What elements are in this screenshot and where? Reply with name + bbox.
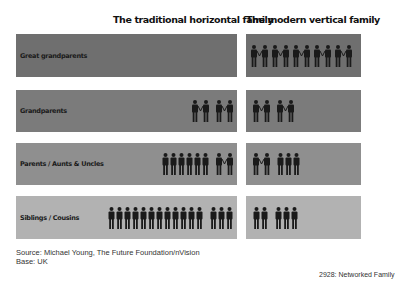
couple-group bbox=[192, 100, 209, 122]
row-label: Grandparents bbox=[20, 107, 67, 115]
traditional-panel: Parents / Aunts & Uncles bbox=[16, 143, 237, 185]
person-icon bbox=[132, 207, 139, 229]
couple-icon bbox=[335, 45, 352, 67]
couple-group bbox=[253, 153, 270, 175]
couple-icon bbox=[253, 153, 270, 175]
couple-icon bbox=[293, 45, 310, 67]
person-icon bbox=[202, 153, 209, 175]
couple-icon bbox=[192, 100, 209, 122]
person-group bbox=[275, 207, 298, 229]
person-icon bbox=[277, 153, 284, 175]
modern-panel bbox=[246, 143, 361, 185]
modern-figures bbox=[251, 34, 356, 77]
person-group bbox=[108, 207, 203, 229]
person-icon bbox=[140, 207, 147, 229]
couple-icon bbox=[314, 45, 331, 67]
person-group bbox=[253, 207, 268, 229]
traditional-figures bbox=[108, 196, 233, 239]
modern-figures bbox=[253, 90, 294, 132]
person-icon bbox=[170, 153, 177, 175]
person-icon bbox=[178, 153, 185, 175]
couple-icon bbox=[277, 100, 294, 122]
person-icon bbox=[226, 207, 233, 229]
couple-group bbox=[277, 100, 294, 122]
modern-panel bbox=[246, 196, 361, 239]
traditional-panel: Grandparents bbox=[16, 90, 237, 132]
person-icon bbox=[291, 207, 298, 229]
person-icon bbox=[261, 207, 268, 229]
person-group bbox=[277, 153, 300, 175]
modern-panel bbox=[246, 90, 361, 132]
person-icon bbox=[196, 207, 203, 229]
modern-figures bbox=[253, 143, 300, 185]
header-modern: The modern vertical family bbox=[246, 14, 380, 25]
traditional-figures bbox=[192, 90, 233, 132]
person-icon bbox=[253, 207, 260, 229]
person-icon bbox=[218, 207, 225, 229]
person-icon bbox=[162, 153, 169, 175]
base-note: Base: UK bbox=[16, 258, 48, 266]
person-icon bbox=[188, 207, 195, 229]
traditional-figures bbox=[162, 143, 233, 185]
row-label: Great grandparents bbox=[20, 52, 87, 60]
couple-icon bbox=[253, 100, 270, 122]
person-icon bbox=[124, 207, 131, 229]
person-icon bbox=[108, 207, 115, 229]
person-icon bbox=[156, 207, 163, 229]
person-group bbox=[210, 207, 233, 229]
person-icon bbox=[293, 153, 300, 175]
person-icon bbox=[210, 207, 217, 229]
row-label: Siblings / Cousins bbox=[20, 214, 79, 222]
person-group bbox=[162, 153, 209, 175]
person-icon bbox=[116, 207, 123, 229]
person-icon bbox=[148, 207, 155, 229]
couple-icon bbox=[272, 45, 289, 67]
couple-icon bbox=[216, 100, 233, 122]
row-label: Parents / Aunts & Uncles bbox=[20, 160, 104, 168]
modern-figures bbox=[253, 196, 298, 239]
modern-panel bbox=[246, 34, 361, 77]
person-icon bbox=[164, 207, 171, 229]
couple-icon bbox=[251, 45, 268, 67]
person-icon bbox=[172, 207, 179, 229]
chart-reference: 2928: Networked Family bbox=[319, 271, 394, 279]
traditional-panel: Great grandparents bbox=[16, 34, 237, 77]
person-icon bbox=[180, 207, 187, 229]
person-icon bbox=[283, 207, 290, 229]
person-icon bbox=[194, 153, 201, 175]
couple-group bbox=[251, 45, 356, 67]
couple-group bbox=[216, 100, 233, 122]
couple-group bbox=[253, 100, 270, 122]
person-icon bbox=[275, 207, 282, 229]
person-icon bbox=[186, 153, 193, 175]
traditional-panel: Siblings / Cousins bbox=[16, 196, 237, 239]
couple-group bbox=[216, 153, 233, 175]
source-note: Source: Michael Young, The Future Founda… bbox=[16, 249, 200, 257]
person-icon bbox=[285, 153, 292, 175]
couple-icon bbox=[216, 153, 233, 175]
